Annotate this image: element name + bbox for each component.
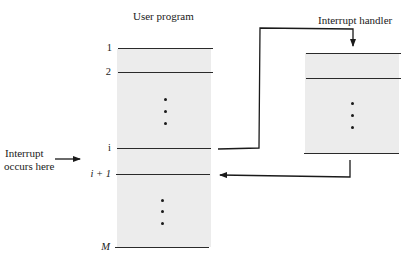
return-control-arrow <box>220 160 350 177</box>
flow-arrows <box>0 0 405 259</box>
transfer-control-arrow <box>218 28 353 149</box>
